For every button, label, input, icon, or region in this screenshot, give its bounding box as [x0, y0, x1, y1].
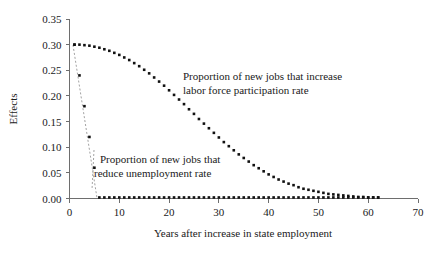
data-point — [307, 188, 310, 191]
data-point — [272, 176, 275, 179]
data-point — [292, 196, 295, 199]
data-point — [123, 196, 126, 199]
data-point — [277, 178, 280, 181]
y-tick-label: 0.20 — [42, 90, 62, 102]
data-point — [307, 196, 310, 199]
x-tick-label: 60 — [363, 206, 375, 218]
data-point — [223, 141, 226, 144]
data-point — [312, 196, 315, 199]
data-point — [257, 196, 260, 199]
data-point — [218, 196, 221, 199]
x-tick-label: 40 — [263, 206, 275, 218]
data-point — [228, 145, 231, 148]
data-point — [143, 196, 146, 199]
data-point — [312, 190, 315, 193]
annotation-lfp-line1: Proportion of new jobs that increase — [183, 70, 342, 82]
x-tick-label: 20 — [164, 206, 176, 218]
data-point — [237, 196, 240, 199]
data-point — [83, 105, 86, 108]
data-point — [232, 149, 235, 152]
y-tick-label: 0.05 — [42, 167, 62, 179]
data-point — [113, 196, 116, 199]
data-point — [98, 196, 101, 199]
data-point — [228, 196, 231, 199]
data-point — [297, 196, 300, 199]
data-point — [302, 196, 305, 199]
data-point — [88, 136, 91, 139]
annotation-unemployment-line2: reduce unemployment rate — [94, 167, 211, 179]
data-point — [168, 89, 171, 92]
data-point — [372, 196, 375, 199]
data-point — [332, 196, 335, 199]
x-tick-label: 70 — [413, 206, 425, 218]
data-point — [252, 164, 255, 167]
data-point — [203, 196, 206, 199]
data-point — [138, 65, 141, 68]
data-point — [262, 170, 265, 173]
y-tick-label: 0.35 — [42, 13, 62, 25]
data-point — [332, 193, 335, 196]
data-point — [78, 43, 81, 46]
y-tick-label: 0.10 — [42, 141, 62, 153]
data-point — [272, 196, 275, 199]
data-point — [178, 98, 181, 101]
data-point — [98, 46, 101, 49]
data-point — [73, 43, 76, 46]
data-point — [158, 80, 161, 83]
data-point — [342, 196, 345, 199]
data-point — [357, 196, 360, 199]
data-point — [337, 196, 340, 199]
data-point — [138, 196, 141, 199]
data-point — [118, 196, 121, 199]
data-point — [153, 196, 156, 199]
y-tick-label: 0.30 — [42, 39, 62, 51]
data-point — [183, 103, 186, 106]
data-point — [128, 196, 131, 199]
data-point — [213, 196, 216, 199]
data-point — [128, 59, 131, 62]
data-point — [83, 44, 86, 47]
data-point — [203, 122, 206, 125]
data-point — [213, 132, 216, 135]
data-point — [282, 180, 285, 183]
chart-figure: 0.000.050.100.150.200.250.300.35 0102030… — [0, 0, 433, 253]
data-point — [247, 196, 250, 199]
data-point — [367, 196, 370, 199]
x-tick-label: 30 — [213, 206, 225, 218]
data-point — [362, 196, 365, 199]
data-point — [208, 127, 211, 130]
annotation-unemployment-line1: Proportion of new jobs that — [100, 153, 220, 165]
data-point — [113, 52, 116, 55]
data-point — [193, 196, 196, 199]
data-point — [88, 44, 91, 47]
annotation-lfp-line2: labor force participation rate — [183, 84, 309, 96]
data-point — [158, 196, 161, 199]
data-point — [93, 45, 96, 48]
data-point — [327, 196, 330, 199]
data-point — [148, 196, 151, 199]
data-point — [148, 72, 151, 75]
data-point — [163, 196, 166, 199]
data-point — [302, 187, 305, 190]
data-point — [108, 50, 111, 53]
data-point — [163, 84, 166, 87]
data-point — [267, 196, 270, 199]
data-point — [232, 196, 235, 199]
data-point — [198, 196, 201, 199]
data-point — [242, 157, 245, 160]
data-point — [173, 196, 176, 199]
data-point — [237, 153, 240, 156]
data-point — [193, 113, 196, 116]
y-axis-title: Effects — [7, 94, 19, 125]
data-point — [322, 192, 325, 195]
data-point — [247, 160, 250, 163]
data-point — [347, 196, 350, 199]
scatter-plot: 0.000.050.100.150.200.250.300.35 0102030… — [0, 0, 433, 253]
data-point — [133, 196, 136, 199]
data-point — [118, 54, 121, 57]
data-point — [262, 196, 265, 199]
data-point — [267, 173, 270, 176]
data-point — [277, 196, 280, 199]
data-point — [173, 94, 176, 97]
data-point — [208, 196, 211, 199]
